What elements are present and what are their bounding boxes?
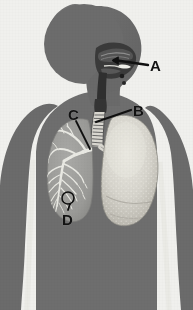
label-b: B bbox=[133, 103, 144, 118]
respiratory-system-figure: A B C D bbox=[0, 0, 193, 310]
label-c: C bbox=[68, 107, 79, 122]
alveoli-marker-circle bbox=[62, 192, 74, 204]
leader-line-b bbox=[96, 110, 131, 122]
callout-layer bbox=[0, 0, 193, 310]
label-a: A bbox=[150, 58, 161, 73]
leader-line-d bbox=[68, 204, 70, 210]
leader-arrow-a bbox=[112, 57, 118, 64]
leader-line-c bbox=[76, 121, 90, 149]
label-d: D bbox=[62, 212, 73, 227]
leader-line-a bbox=[114, 60, 148, 65]
